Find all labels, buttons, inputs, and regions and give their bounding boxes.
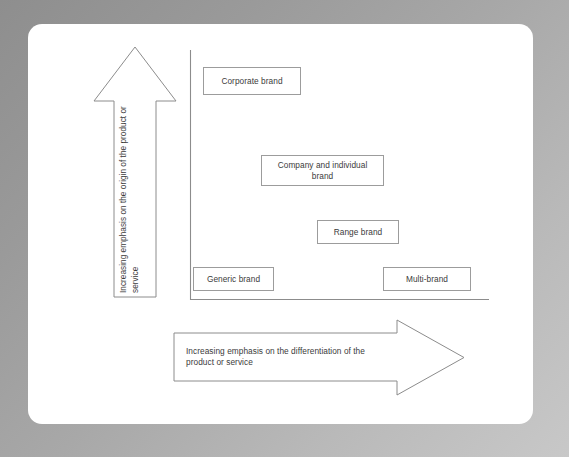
label-range-brand: Range brand <box>317 220 399 244</box>
label-generic-brand: Generic brand <box>193 267 274 291</box>
vertical-axis-label: Increasing emphasis on the origin of the… <box>118 97 141 293</box>
label-multi-brand: Multi-brand <box>383 267 471 291</box>
diagram-screenshot: Increasing emphasis on the origin of the… <box>0 0 569 457</box>
horizontal-axis-label: Increasing emphasis on the differentiati… <box>186 346 416 368</box>
label-company-and-individual-brand: Company and individual brand <box>261 155 384 186</box>
label-corporate-brand: Corporate brand <box>203 67 301 95</box>
